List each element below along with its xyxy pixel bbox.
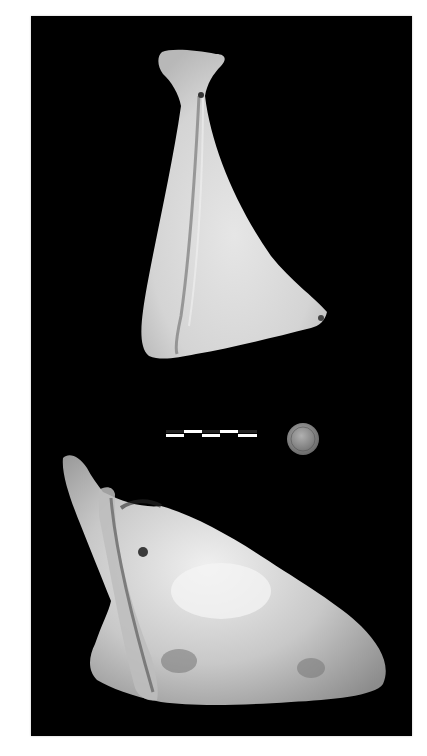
scapula-bone-top [141,50,327,359]
specimen-photo [31,16,412,736]
scale-bar [166,430,257,437]
specimen-photo-panel [31,16,412,736]
reference-coin [287,423,319,455]
scapula-bone-bottom [63,455,386,705]
